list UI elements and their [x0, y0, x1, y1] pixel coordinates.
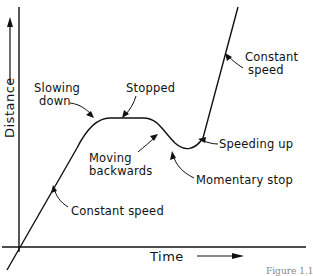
label-moving-backwards: Moving backwards	[89, 152, 152, 178]
x-arrowhead-icon	[232, 253, 244, 259]
label-speeding-up: Speeding up	[219, 138, 293, 151]
y-arrowhead-icon	[7, 17, 13, 27]
arrowhead-icon	[225, 53, 232, 61]
label-slowing-down: Slowing down	[34, 82, 80, 108]
x-axis-label: Time	[150, 249, 184, 264]
arrowhead-icon	[86, 111, 94, 118]
label-constant-speed-2: Constant speed	[245, 51, 298, 77]
label-line: backwards	[89, 165, 152, 178]
y-axis-label: Distance	[2, 77, 17, 138]
arrow-momentary-stop	[173, 155, 194, 178]
figure-caption: Figure 1.1	[266, 266, 313, 276]
label-stopped: Stopped	[126, 82, 175, 95]
label-momentary-stop: Momentary stop	[196, 174, 293, 187]
arrowhead-icon	[170, 151, 176, 160]
label-line: down	[34, 95, 80, 108]
arrowhead-icon	[51, 185, 57, 193]
arrow-moving-backwards	[138, 137, 155, 152]
label-line: speed	[245, 64, 298, 77]
label-constant-speed-1: Constant speed	[71, 205, 164, 218]
